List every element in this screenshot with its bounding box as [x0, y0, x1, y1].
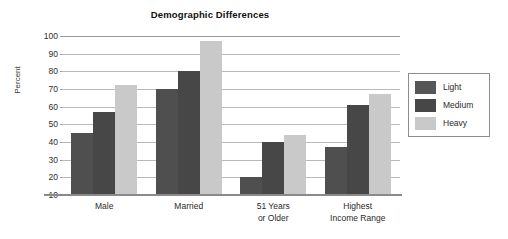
y-tick-label-70: 70	[34, 85, 58, 94]
x-category-label: 51 Yearsor Older	[231, 200, 316, 224]
bar-group	[325, 36, 391, 195]
chart-legend: LightMediumHeavy	[408, 73, 490, 137]
legend-swatch-icon	[415, 117, 436, 130]
bar	[240, 177, 262, 195]
legend-swatch-icon	[415, 99, 436, 112]
y-tick-label-80: 80	[34, 67, 58, 76]
legend-label: Heavy	[443, 119, 467, 128]
y-axis-title: Percent	[13, 50, 22, 110]
x-category-label: Male	[62, 200, 147, 212]
bar	[71, 133, 93, 195]
y-axis-tick-labels: 102030405060708090100	[30, 36, 58, 195]
x-category-label: HighestIncome Range	[316, 200, 401, 224]
y-tick-label-20: 20	[34, 173, 58, 182]
chart-title: Demographic Differences	[0, 9, 420, 20]
x-axis-category-labels: MaleMarried51 Yearsor OlderHighestIncome…	[62, 200, 400, 238]
legend-label: Light	[443, 83, 461, 92]
y-tick-label-30: 30	[34, 156, 58, 165]
y-tick-label-60: 60	[34, 103, 58, 112]
bar	[369, 94, 391, 195]
y-tick-label-90: 90	[34, 50, 58, 59]
x-category-label: Married	[147, 200, 232, 212]
legend-item-medium[interactable]: Medium	[415, 98, 473, 112]
legend-swatch-icon	[415, 81, 436, 94]
bar	[200, 41, 222, 195]
bar	[284, 135, 306, 195]
y-tick-label-50: 50	[34, 120, 58, 129]
bar	[156, 89, 178, 195]
bar	[325, 147, 347, 195]
bar	[93, 112, 115, 195]
y-tick-label-100: 100	[34, 32, 58, 41]
bar	[262, 142, 284, 195]
chart-figure: Demographic Differences Percent 10203040…	[0, 0, 508, 239]
plot-area	[62, 36, 400, 195]
bar	[178, 71, 200, 195]
bar	[115, 85, 137, 195]
bar-group	[240, 36, 306, 195]
legend-label: Medium	[443, 101, 473, 110]
bar	[347, 105, 369, 195]
y-tick-label-40: 40	[34, 138, 58, 147]
legend-item-heavy[interactable]: Heavy	[415, 116, 467, 130]
x-axis-line	[44, 194, 402, 196]
legend-item-light[interactable]: Light	[415, 80, 461, 94]
bar-group	[156, 36, 222, 195]
bar-group	[71, 36, 137, 195]
